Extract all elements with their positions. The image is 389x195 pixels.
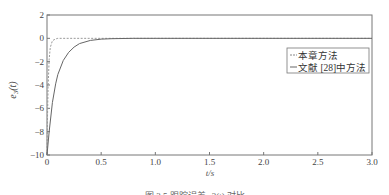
x-tick-label: 0.5 bbox=[96, 157, 108, 167]
plot-area bbox=[47, 15, 372, 155]
legend: 本章方法 文献 [28]中方法 bbox=[287, 48, 369, 73]
y-axis-label: e3(t) bbox=[7, 81, 20, 99]
x-tick-label: 2.0 bbox=[258, 157, 270, 167]
figure-caption: 图 3.5 跟踪误差 e3(t) 对比 bbox=[145, 190, 245, 195]
legend-label-0: 本章方法 bbox=[298, 50, 338, 61]
x-tick-label: 1.5 bbox=[204, 157, 216, 167]
y-tick-label: 2 bbox=[40, 10, 45, 20]
x-tick-label: 1.0 bbox=[150, 157, 162, 167]
x-axis-label: t/s bbox=[206, 168, 215, 178]
x-tick-label: 3.0 bbox=[366, 157, 378, 167]
y-tick-label: 0 bbox=[40, 33, 45, 43]
x-axis-ticks: 00.51.01.52.02.53.0 bbox=[45, 152, 378, 167]
y-tick-label: −10 bbox=[30, 150, 45, 160]
y-tick-label: −4 bbox=[34, 80, 44, 90]
x-tick-label: 2.5 bbox=[312, 157, 324, 167]
y-tick-label: −8 bbox=[34, 127, 44, 137]
line-chart: 20−2−4−6−8−10 00.51.01.52.02.53.0 e3(t) … bbox=[0, 0, 389, 195]
legend-label-1: 文献 [28]中方法 bbox=[298, 62, 366, 73]
y-tick-label: −2 bbox=[34, 57, 44, 67]
x-tick-label: 0 bbox=[45, 157, 50, 167]
y-tick-label: −6 bbox=[34, 103, 44, 113]
